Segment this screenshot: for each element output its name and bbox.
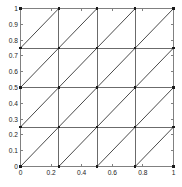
mesh-diagonal <box>135 88 173 128</box>
y-axis-tick-label: 0.3 <box>9 116 18 123</box>
mesh-node-marker <box>96 7 98 9</box>
mesh-plot: 00.20.40.60.8100.10.20.30.40.50.60.70.80… <box>0 0 182 187</box>
x-axis-tick-label: 0.4 <box>77 169 86 176</box>
y-axis-tick-label: 1 <box>14 5 18 12</box>
mesh-diagonal <box>59 9 97 49</box>
y-axis-tick-label: 0.6 <box>9 68 18 75</box>
y-axis-tick-label: 0.7 <box>9 52 18 59</box>
mesh-diagonal <box>135 9 173 49</box>
mesh-node-marker <box>96 126 98 128</box>
mesh-node-marker <box>58 165 60 167</box>
mesh-node-marker <box>19 126 21 128</box>
mesh-node-marker <box>172 165 174 167</box>
mesh-diagonal <box>21 127 59 167</box>
mesh-node-marker <box>96 165 98 167</box>
mesh-node-marker <box>172 126 174 128</box>
mesh-node-marker <box>58 47 60 49</box>
mesh-diagonal <box>59 88 97 128</box>
x-axis-tick-label: 1 <box>172 169 176 176</box>
y-axis-tick-label: 0.8 <box>9 37 18 44</box>
mesh-node-marker <box>172 86 174 88</box>
mesh-node-marker <box>134 126 136 128</box>
y-axis-tick-label: 0.5 <box>9 84 18 91</box>
mesh-node-marker <box>172 7 174 9</box>
y-axis-tick-label: 0.2 <box>9 131 18 138</box>
mesh-figure: 00.20.40.60.8100.10.20.30.40.50.60.70.80… <box>0 0 182 187</box>
mesh-diagonal <box>59 127 97 167</box>
y-axis-tick-label: 0.9 <box>9 21 18 28</box>
mesh-diagonal <box>97 48 135 88</box>
mesh-node-marker <box>134 47 136 49</box>
mesh-diagonal <box>21 88 59 128</box>
mesh-node-marker <box>19 165 21 167</box>
mesh-node-marker <box>134 7 136 9</box>
mesh-diagonal <box>59 48 97 88</box>
mesh-node-marker <box>58 86 60 88</box>
x-axis-tick-label: 0.8 <box>138 169 147 176</box>
mesh-node-marker <box>134 86 136 88</box>
mesh-diagonal <box>21 48 59 88</box>
mesh-node-marker <box>19 86 21 88</box>
mesh-node-marker <box>134 165 136 167</box>
mesh-diagonal <box>135 127 173 167</box>
mesh-node-marker <box>96 47 98 49</box>
x-axis-tick-label: 0.6 <box>108 169 117 176</box>
mesh-node-marker <box>19 47 21 49</box>
mesh-node-marker <box>172 47 174 49</box>
y-axis-tick-label: 0 <box>14 163 18 170</box>
x-axis-tick-label: 0 <box>19 169 23 176</box>
mesh-node-marker <box>58 7 60 9</box>
mesh-node-marker <box>96 86 98 88</box>
y-axis-tick-label: 0.1 <box>9 147 18 154</box>
mesh-diagonal <box>97 88 135 128</box>
mesh-diagonal <box>135 48 173 88</box>
y-axis-tick-label: 0.4 <box>9 100 18 107</box>
x-axis-tick-label: 0.2 <box>47 169 56 176</box>
mesh-node-marker <box>19 7 21 9</box>
mesh-diagonal <box>97 9 135 49</box>
mesh-diagonal <box>97 127 135 167</box>
mesh-node-marker <box>58 126 60 128</box>
mesh-diagonal <box>21 9 59 49</box>
